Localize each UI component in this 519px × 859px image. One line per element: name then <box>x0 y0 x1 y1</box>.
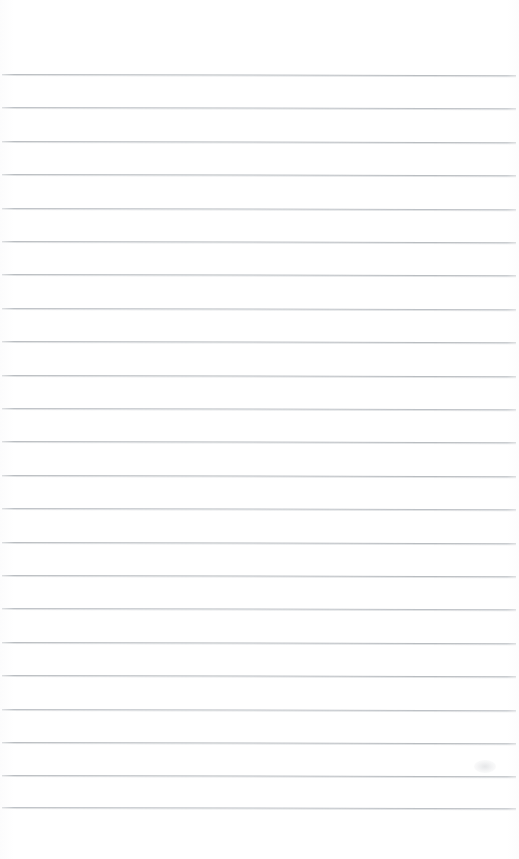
ruled-line <box>2 274 516 276</box>
ruled-line <box>2 107 516 109</box>
ruled-line <box>2 241 516 243</box>
ruled-lines-group <box>0 0 519 859</box>
ruled-line <box>2 341 516 343</box>
ruled-line <box>2 375 516 377</box>
ruled-line <box>2 74 516 76</box>
ruled-line <box>2 709 516 711</box>
ruled-line <box>2 608 516 610</box>
ruled-line <box>2 475 516 477</box>
ruled-line <box>2 408 516 410</box>
ruled-line <box>2 675 516 677</box>
ruled-line <box>2 807 516 809</box>
ruled-line <box>2 742 516 744</box>
ruled-line <box>2 308 516 310</box>
ruled-line <box>2 575 516 577</box>
ruled-line <box>2 141 516 143</box>
ruled-line <box>2 508 516 510</box>
ruled-line <box>2 542 516 544</box>
ruled-line <box>2 208 516 210</box>
ruled-line <box>2 441 516 443</box>
ruled-line <box>2 174 516 176</box>
ruled-line <box>2 642 516 644</box>
ruled-paper-page <box>0 0 519 859</box>
ruled-line <box>2 775 516 777</box>
